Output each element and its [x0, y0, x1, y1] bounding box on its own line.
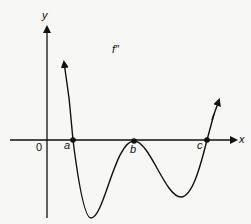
- point-c-label: c: [197, 139, 203, 151]
- graph-canvas: [0, 0, 251, 224]
- point-c: [204, 137, 210, 143]
- function-label: f″: [112, 43, 119, 55]
- f-double-prime-curve: [70, 108, 214, 218]
- curve-left-arrow-icon: [64, 62, 69, 98]
- point-a: [70, 137, 76, 143]
- point-a-label: a: [64, 139, 70, 151]
- curve-right-arrow-icon: [212, 100, 219, 120]
- origin-label: 0: [36, 141, 42, 153]
- y-axis-label: y: [42, 9, 48, 21]
- x-axis-label: x: [239, 133, 245, 145]
- graph-figure: y f″ 0 a b c x: [0, 0, 251, 224]
- point-b-label: b: [130, 143, 136, 155]
